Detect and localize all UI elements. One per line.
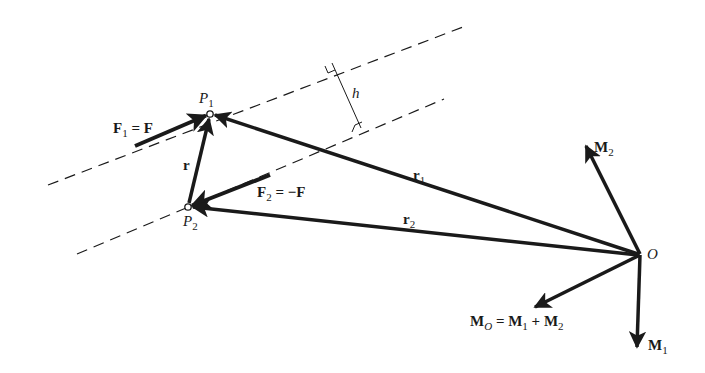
point-P1 <box>207 111 213 117</box>
label-h: h <box>352 85 360 101</box>
label-P2: P2 <box>182 213 198 232</box>
vector-r-arrow <box>189 119 209 203</box>
label-F2: F2 = −F <box>257 184 305 203</box>
label-F1: F1 = F <box>113 120 153 139</box>
line-of-action-upper <box>48 27 463 185</box>
force-couple-diagram: h F1 = F F2 = −F r r1 r2 M2 M1 MO = M1 +… <box>0 0 705 373</box>
label-P1: P1 <box>198 90 214 109</box>
label-r: r <box>183 157 190 173</box>
label-M1: M1 <box>648 337 668 356</box>
label-O: O <box>647 246 658 262</box>
point-P2 <box>185 204 191 210</box>
moment-M1-arrow <box>637 255 640 347</box>
label-M2: M2 <box>594 139 614 158</box>
label-r1: r1 <box>413 167 425 186</box>
label-r2: r2 <box>403 211 415 230</box>
label-MO: MO = M1 + M2 <box>470 313 564 332</box>
moment-MO-arrow <box>535 255 640 307</box>
